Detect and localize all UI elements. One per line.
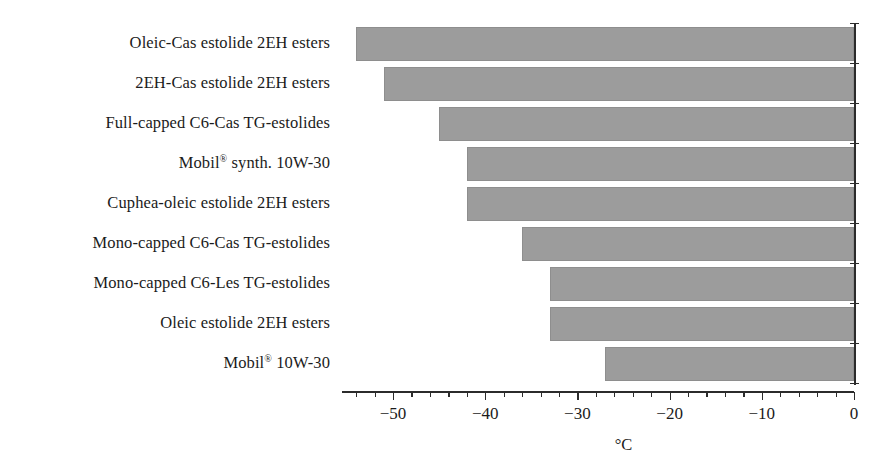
x-axis-minor-tick <box>743 392 744 397</box>
x-axis-minor-tick <box>559 392 560 397</box>
plot-area: −50−40−30−20−100°C <box>0 0 891 470</box>
x-axis-minor-tick <box>356 392 357 397</box>
y-axis-tick <box>850 383 859 384</box>
x-axis-title: °C <box>615 437 633 454</box>
x-axis-major-tick <box>393 392 394 400</box>
x-axis-tick-label: −40 <box>472 405 499 422</box>
y-axis-tick <box>850 23 859 24</box>
x-axis-tick-label: 0 <box>850 405 859 422</box>
y-axis-tick <box>850 103 859 104</box>
y-axis-tick <box>850 183 859 184</box>
x-axis-minor-tick <box>375 392 376 397</box>
bar <box>605 347 854 381</box>
x-axis-minor-tick <box>706 392 707 397</box>
x-axis-minor-tick <box>504 392 505 397</box>
x-axis-tick-label: −50 <box>380 405 407 422</box>
x-axis-major-tick <box>577 392 578 400</box>
x-axis-minor-tick <box>651 392 652 397</box>
x-axis-minor-tick <box>467 392 468 397</box>
y-axis-line <box>854 23 856 385</box>
y-axis-tick <box>850 223 859 224</box>
y-axis-tick <box>850 263 859 264</box>
bar <box>356 27 854 61</box>
y-axis-tick <box>850 343 859 344</box>
x-axis-tick-label: −10 <box>749 405 776 422</box>
y-axis-tick <box>850 63 859 64</box>
x-axis-major-tick <box>670 392 671 400</box>
x-axis-tick-label: −30 <box>564 405 591 422</box>
x-axis-minor-tick <box>430 392 431 397</box>
x-axis-minor-tick <box>448 392 449 397</box>
x-axis-major-tick <box>485 392 486 400</box>
bar <box>467 147 854 181</box>
y-axis-tick <box>850 303 859 304</box>
x-axis-major-tick <box>854 392 855 400</box>
bar <box>550 307 854 341</box>
x-axis-major-tick <box>762 392 763 400</box>
y-axis-tick <box>850 143 859 144</box>
x-axis-minor-tick <box>633 392 634 397</box>
bar <box>384 67 854 101</box>
x-axis-minor-tick <box>780 392 781 397</box>
bar <box>522 227 854 261</box>
bar <box>439 107 854 141</box>
x-axis-line <box>342 391 854 393</box>
pour-point-bar-chart: Oleic-Cas estolide 2EH esters2EH-Cas est… <box>0 0 891 470</box>
x-axis-minor-tick <box>541 392 542 397</box>
x-axis-minor-tick <box>522 392 523 397</box>
x-axis-minor-tick <box>614 392 615 397</box>
x-axis-tick-label: −20 <box>656 405 683 422</box>
bar <box>467 187 854 221</box>
x-axis-minor-tick <box>817 392 818 397</box>
x-axis-minor-tick <box>596 392 597 397</box>
x-axis-minor-tick <box>688 392 689 397</box>
x-axis-minor-tick <box>725 392 726 397</box>
bar <box>550 267 854 301</box>
x-axis-minor-tick <box>799 392 800 397</box>
x-axis-minor-tick <box>411 392 412 397</box>
x-axis-minor-tick <box>836 392 837 397</box>
